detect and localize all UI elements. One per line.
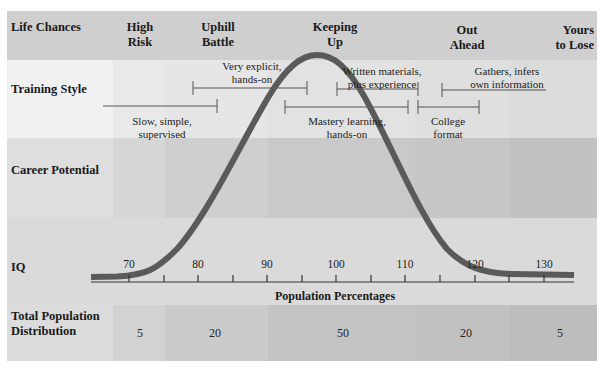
tick-label-100: 100	[321, 258, 351, 270]
distribution-keeping-up: 50	[333, 326, 353, 341]
note-line: own information	[452, 78, 562, 91]
distribution-uphill-battle: 20	[205, 326, 225, 341]
training-note-mastery-learning: Mastery learning, hands-on	[287, 115, 407, 140]
tick-label-70: 70	[114, 258, 144, 270]
note-line: plus experience	[337, 78, 427, 91]
note-line: supervised	[107, 128, 217, 141]
iq-life-chances-diagram: Life Chances Training Style Career Poten…	[7, 11, 597, 361]
note-line: Slow, simple,	[107, 115, 217, 128]
axis-title-population-percentages: Population Percentages	[275, 289, 395, 304]
note-line: College	[418, 115, 478, 128]
note-line: hands-on	[287, 128, 407, 141]
note-line: format	[418, 128, 478, 141]
tick-label-90: 90	[252, 258, 282, 270]
training-note-very-explicit: Very explicit, hands-on	[197, 60, 307, 85]
training-note-gathers-infers: Gathers, infers own information	[452, 65, 562, 90]
tick-label-110: 110	[390, 258, 420, 270]
tick-label-80: 80	[183, 258, 213, 270]
distribution-high-risk: 5	[130, 326, 150, 341]
note-line: Mastery learning,	[287, 115, 407, 128]
note-line: hands-on	[197, 73, 307, 86]
note-line: Very explicit,	[197, 60, 307, 73]
tick-label-120: 120	[460, 258, 490, 270]
training-note-slow-simple: Slow, simple, supervised	[107, 115, 217, 140]
tick-label-130: 130	[529, 258, 559, 270]
distribution-yours-to-lose: 5	[550, 326, 570, 341]
distribution-out-ahead: 20	[456, 326, 476, 341]
training-note-written-materials: Written materials, plus experience	[337, 65, 427, 90]
note-line: Gathers, infers	[452, 65, 562, 78]
training-note-college-format: College format	[418, 115, 478, 140]
note-line: Written materials,	[337, 65, 427, 78]
